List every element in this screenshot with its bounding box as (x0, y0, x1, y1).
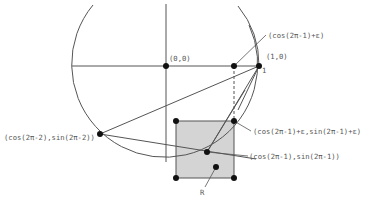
epsilon-square (176, 121, 234, 178)
leader-cos-eps (234, 35, 266, 66)
line-one-to-corner (238, 66, 259, 110)
label-cos-eps: (cos(2π-1)+ε) (268, 31, 324, 40)
point-2pi-minus-1 (204, 149, 210, 155)
label-point-2pi-minus-1: (cos(2π-1),sin(2π-1)) (249, 152, 340, 161)
point-cos-eps (231, 63, 237, 69)
label-corner-top-right: (cos(2π-1)+ε,sin(2π-1)+ε) (253, 127, 361, 136)
label-region-r: R (200, 188, 205, 197)
corner-top-right (231, 118, 237, 124)
unit-circle-arc-right (238, 6, 259, 66)
label-one-tick: 1 (262, 66, 266, 75)
corner-top-left (173, 118, 179, 124)
point-r (213, 164, 219, 170)
label-origin: (0,0) (169, 54, 191, 63)
corner-bottom-right (231, 175, 237, 181)
label-one-zero: (1,0) (266, 52, 288, 61)
corner-bottom-left (173, 175, 179, 181)
label-point-2pi-minus-2: (cos(2π-2),sin(2π-2)) (4, 133, 95, 142)
point-2pi-minus-2 (97, 131, 103, 137)
point-origin (163, 63, 169, 69)
diagram-canvas: (0,0) (1,0) 1 (cos(2π-1)+ε) (cos(2π-2),s… (0, 0, 366, 200)
